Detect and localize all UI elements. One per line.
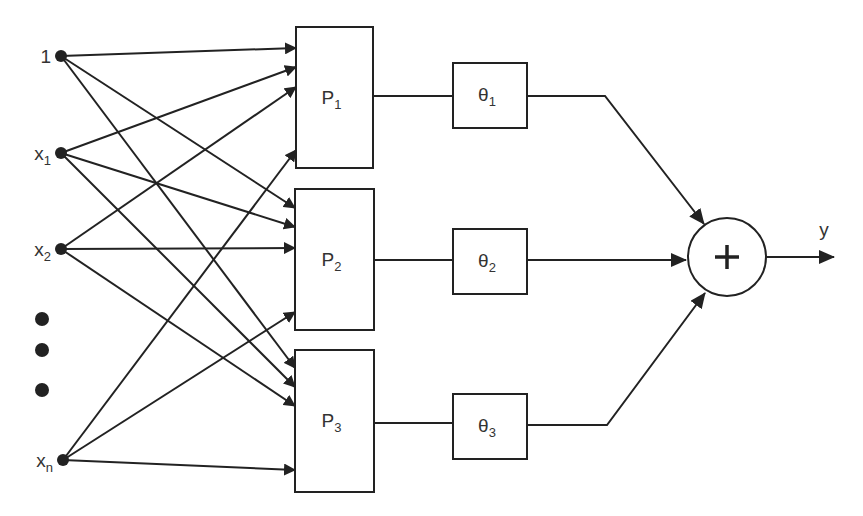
network-diagram: y P1P2P3 θ1θ2θ3 1x1x2xn (0, 0, 863, 516)
edge-in-1-to-P3 (61, 56, 295, 368)
edge-in-1-to-P2 (61, 56, 295, 208)
input-label: xn (36, 450, 53, 475)
edge-theta3-to-sum (527, 293, 705, 425)
p-box-p3: P3 (295, 350, 374, 492)
theta-boxes: θ1θ2θ3 (453, 63, 527, 459)
output-label: y (819, 219, 829, 240)
p-box-p2: P2 (295, 189, 374, 330)
theta-box-2: θ2 (453, 229, 527, 294)
ellipsis-dots (35, 312, 49, 397)
p-box-label-subscript: 3 (334, 420, 341, 435)
theta-box-label-subscript: 2 (489, 260, 496, 275)
sum-node (688, 218, 766, 296)
theta-box-label-subscript: 1 (489, 94, 496, 109)
p-box-p1: P1 (296, 27, 373, 168)
input-dot (55, 243, 67, 255)
input-edges (61, 48, 296, 470)
input-node-x1: x1 (34, 143, 67, 168)
input-label: x2 (34, 239, 51, 264)
output-edge: y (766, 219, 834, 257)
input-node-x2: x2 (34, 239, 67, 264)
input-dot (55, 50, 67, 62)
theta-box-1: θ1 (453, 63, 527, 128)
theta-box-3: θ3 (453, 394, 527, 459)
input-label: 1 (40, 46, 51, 67)
edge-in-x2-to-P3 (61, 249, 295, 406)
edge-in-xn-to-P3 (63, 460, 295, 470)
input-nodes: 1x1x2xn (34, 46, 69, 475)
input-dot (57, 454, 69, 466)
input-dot (55, 147, 67, 159)
edge-in-x2-to-P2 (61, 248, 295, 249)
p-box-label-main: P (322, 249, 335, 270)
edge-in-xn-to-P2 (63, 312, 295, 460)
p-to-theta-edges (373, 96, 453, 423)
input-label-main: x (34, 239, 44, 260)
input-label-subscript: 1 (44, 153, 51, 168)
edge-theta1-to-sum (527, 96, 704, 224)
edge-in-x2-to-P1 (61, 87, 296, 249)
input-label-main: 1 (40, 46, 51, 67)
theta-box-label-main: θ (478, 84, 489, 105)
p-box-label-subscript: 1 (334, 97, 341, 112)
theta-box-label-main: θ (478, 415, 489, 436)
input-label-main: x (34, 143, 44, 164)
input-label-subscript: 2 (44, 249, 51, 264)
ellipsis-dot (35, 312, 49, 326)
edge-in-x1-to-P2 (61, 153, 295, 227)
input-label-subscript: n (46, 460, 53, 475)
theta-box-label-subscript: 3 (489, 425, 496, 440)
p-box-label-main: P (322, 410, 335, 431)
edge-in-xn-to-P1 (63, 150, 296, 460)
input-label-main: x (36, 450, 46, 471)
input-node-xn: xn (36, 450, 69, 475)
theta-box-label-main: θ (478, 250, 489, 271)
theta-to-sum-edges (527, 96, 705, 425)
p-box-label-subscript: 2 (334, 259, 341, 274)
ellipsis-dot (35, 383, 49, 397)
edge-in-1-to-P1 (61, 48, 296, 56)
input-label: x1 (34, 143, 51, 168)
edge-in-x1-to-P3 (61, 153, 295, 387)
ellipsis-dot (35, 343, 49, 357)
p-boxes: P1P2P3 (295, 27, 374, 492)
p-box-label-main: P (322, 87, 335, 108)
input-node-1: 1 (40, 46, 67, 67)
